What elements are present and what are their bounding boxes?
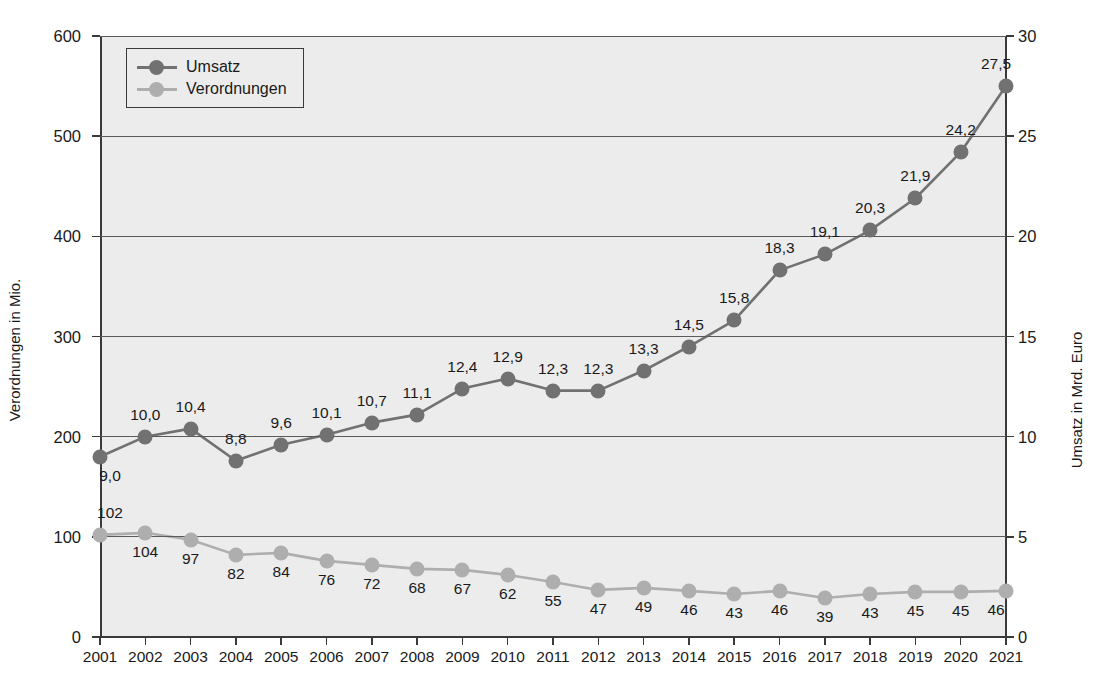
legend-label-verordnungen: Verordnungen xyxy=(186,80,287,98)
data-point xyxy=(500,567,515,582)
data-point xyxy=(953,145,968,160)
left-axis-tick xyxy=(92,236,100,238)
data-point xyxy=(410,561,425,576)
x-axis-tick-label: 2008 xyxy=(400,648,434,666)
left-axis-tick-label: 200 xyxy=(53,427,81,446)
data-point xyxy=(455,381,470,396)
x-axis-tick-label: 2011 xyxy=(536,648,569,666)
data-point xyxy=(727,586,742,601)
data-point xyxy=(319,553,334,568)
x-axis-tick-label: 2009 xyxy=(445,648,479,666)
data-label: 46 xyxy=(987,601,1004,619)
right-axis-tick xyxy=(1006,636,1014,638)
x-axis-tick xyxy=(552,637,554,645)
data-label: 20,3 xyxy=(855,199,885,217)
x-axis-tick-label: 2005 xyxy=(264,648,298,666)
data-point xyxy=(183,421,198,436)
data-point xyxy=(999,583,1014,598)
gridline xyxy=(100,36,1006,37)
data-point xyxy=(817,590,832,605)
data-point xyxy=(817,247,832,262)
data-label: 24,2 xyxy=(946,121,976,139)
data-label: 82 xyxy=(227,565,244,583)
right-axis-tick-label: 0 xyxy=(1018,628,1027,647)
left-axis-tick-label: 300 xyxy=(53,327,81,346)
x-axis-tick-label: 2021 xyxy=(989,648,1023,666)
data-point xyxy=(410,407,425,422)
x-axis-tick-label: 2001 xyxy=(83,648,117,666)
data-label: 68 xyxy=(408,579,425,597)
x-axis-tick xyxy=(507,637,509,645)
data-label: 45 xyxy=(907,602,924,620)
legend-item-verordnungen: Verordnungen xyxy=(137,78,287,100)
x-axis-tick-label: 2007 xyxy=(355,648,389,666)
data-label: 43 xyxy=(861,604,878,622)
data-point xyxy=(546,383,561,398)
x-axis-tick-label: 2002 xyxy=(128,648,162,666)
x-axis-tick xyxy=(462,637,464,645)
data-label: 13,3 xyxy=(629,340,659,358)
x-axis-tick-label: 2017 xyxy=(808,648,842,666)
data-label: 97 xyxy=(182,550,199,568)
data-label: 76 xyxy=(318,571,335,589)
data-label: 45 xyxy=(952,602,969,620)
data-point xyxy=(274,545,289,560)
data-label: 15,8 xyxy=(719,289,749,307)
data-label: 39 xyxy=(816,608,833,626)
x-axis-tick-label: 2020 xyxy=(943,648,977,666)
right-axis-tick xyxy=(1006,536,1014,538)
data-point xyxy=(228,547,243,562)
data-label: 72 xyxy=(363,575,380,593)
x-axis-tick xyxy=(915,637,917,645)
x-axis-tick xyxy=(688,637,690,645)
data-point xyxy=(546,574,561,589)
data-point xyxy=(772,263,787,278)
x-axis-tick xyxy=(643,637,645,645)
data-point xyxy=(681,583,696,598)
data-label: 12,3 xyxy=(583,360,613,378)
legend-marker-verordnungen xyxy=(137,82,177,96)
data-label: 62 xyxy=(499,585,516,603)
data-point xyxy=(228,453,243,468)
x-axis-tick xyxy=(326,637,328,645)
data-label: 14,5 xyxy=(674,316,704,334)
x-axis-tick xyxy=(235,637,237,645)
right-axis-tick-label: 5 xyxy=(1018,527,1027,546)
x-axis-tick xyxy=(733,637,735,645)
data-label: 67 xyxy=(454,580,471,598)
data-point xyxy=(455,562,470,577)
x-axis-tick xyxy=(869,637,871,645)
right-axis-title: Umsatz in Mrd. Euro xyxy=(1068,332,1085,469)
data-label: 21,9 xyxy=(900,167,930,185)
data-label: 10,1 xyxy=(311,404,341,422)
right-axis-tick-label: 15 xyxy=(1018,327,1036,346)
right-axis-tick xyxy=(1006,336,1014,338)
data-label: 12,9 xyxy=(493,348,523,366)
data-label: 18,3 xyxy=(764,239,794,257)
data-point xyxy=(183,532,198,547)
data-point xyxy=(319,427,334,442)
left-axis-title: Verordnungen in Mio. xyxy=(6,279,23,422)
left-axis-tick xyxy=(92,336,100,338)
data-label: 9,6 xyxy=(270,414,292,432)
data-label: 10,4 xyxy=(176,398,206,416)
data-label: 10,7 xyxy=(357,392,387,410)
data-label: 46 xyxy=(771,601,788,619)
x-axis-tick xyxy=(190,637,192,645)
left-axis-tick xyxy=(92,436,100,438)
data-point xyxy=(908,191,923,206)
data-label: 11,1 xyxy=(403,384,432,402)
gridline xyxy=(100,136,1006,137)
data-label: 43 xyxy=(726,604,743,622)
data-point xyxy=(953,584,968,599)
x-axis-tick-label: 2003 xyxy=(173,648,207,666)
data-label: 49 xyxy=(635,598,652,616)
data-point xyxy=(772,583,787,598)
data-label: 12,3 xyxy=(538,360,568,378)
x-axis-tick-label: 2012 xyxy=(581,648,615,666)
data-label: 12,4 xyxy=(447,358,477,376)
data-point xyxy=(591,383,606,398)
x-axis-tick xyxy=(145,637,147,645)
data-point xyxy=(138,525,153,540)
data-point xyxy=(636,363,651,378)
